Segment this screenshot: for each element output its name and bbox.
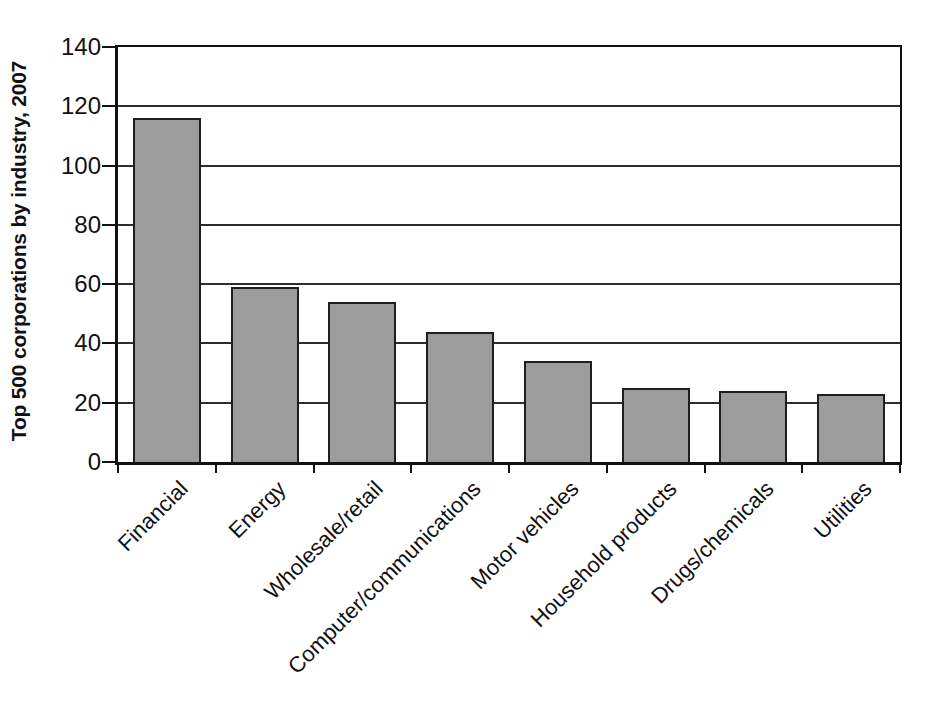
- y-tick-mark-20: [102, 402, 115, 404]
- bar-slot-wholesale-retail: [314, 47, 412, 462]
- bar-slot-computer-communications: [411, 47, 509, 462]
- x-tick-mark-6: [704, 465, 706, 473]
- bars-layer: [118, 47, 900, 462]
- bar-slot-energy: [216, 47, 314, 462]
- x-tick-mark-3: [410, 465, 412, 473]
- plot-area: 020406080100120140 FinancialEnergyWholes…: [115, 45, 902, 465]
- x-tick-mark-1: [215, 465, 217, 473]
- x-tick-mark-5: [606, 465, 608, 473]
- y-tick-mark-80: [102, 224, 115, 226]
- y-tick-mark-140: [102, 46, 115, 48]
- x-tick-mark-8: [899, 465, 901, 473]
- x-tick-mark-0: [117, 465, 119, 473]
- bar-energy: [231, 287, 299, 462]
- y-tick-label-0: 0: [53, 449, 101, 475]
- bar-chart-figure: Top 500 corporations by industry, 2007 0…: [0, 0, 927, 717]
- y-tick-mark-0: [102, 461, 115, 463]
- x-tick-mark-4: [508, 465, 510, 473]
- bar-financial: [133, 118, 201, 462]
- bar-slot-motor-vehicles: [509, 47, 607, 462]
- bar-slot-drugs-chemicals: [705, 47, 803, 462]
- y-tick-label-80: 80: [53, 212, 101, 238]
- bar-motor-vehicles: [524, 361, 592, 462]
- y-axis-title: Top 500 corporations by industry, 2007: [7, 21, 37, 481]
- bar-wholesale-retail: [328, 302, 396, 462]
- bar-computer-communications: [426, 332, 494, 462]
- bar-slot-financial: [118, 47, 216, 462]
- y-tick-label-20: 20: [53, 390, 101, 416]
- y-tick-label-140: 140: [53, 34, 101, 60]
- y-tick-label-120: 120: [53, 93, 101, 119]
- bar-slot-utilities: [802, 47, 900, 462]
- y-tick-mark-40: [102, 342, 115, 344]
- x-tick-mark-2: [313, 465, 315, 473]
- y-tick-label-40: 40: [53, 330, 101, 356]
- x-tick-mark-7: [801, 465, 803, 473]
- y-tick-label-100: 100: [53, 153, 101, 179]
- y-tick-label-60: 60: [53, 271, 101, 297]
- bar-drugs-chemicals: [719, 391, 787, 462]
- y-tick-mark-120: [102, 105, 115, 107]
- bar-household-products: [622, 388, 690, 462]
- y-tick-mark-100: [102, 165, 115, 167]
- bar-utilities: [817, 394, 885, 462]
- y-tick-mark-60: [102, 283, 115, 285]
- bar-slot-household-products: [607, 47, 705, 462]
